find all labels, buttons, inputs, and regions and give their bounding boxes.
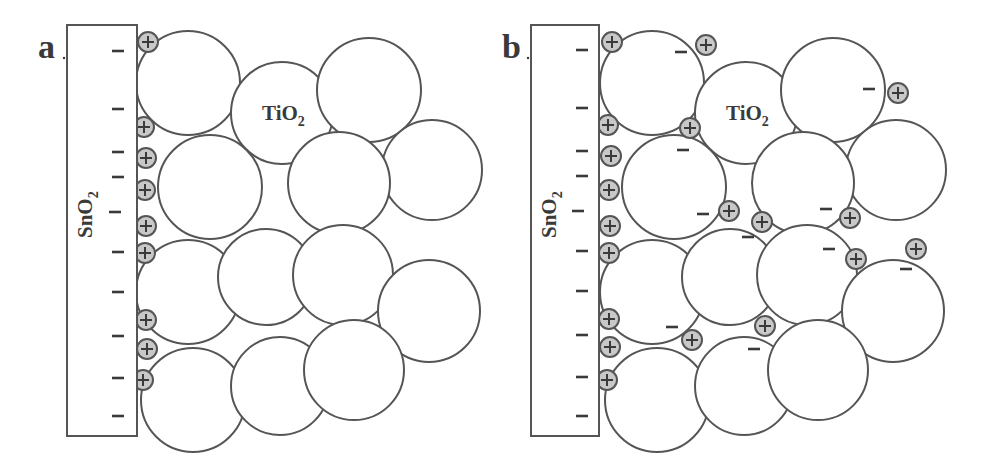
tio2-nanoparticle (141, 348, 245, 452)
tio2-nanoparticle (622, 135, 726, 239)
panel-label: a (38, 28, 55, 65)
sno2-label: SnO2 (537, 191, 565, 238)
charge-distribution-figure: aSnO2TiO2 bSnO2TiO2 (0, 0, 990, 466)
positive-charge-icon (840, 208, 860, 228)
panel-a: aSnO2TiO2 (38, 25, 482, 452)
tio2-nanoparticle (382, 120, 482, 220)
positive-charge-icon (906, 239, 926, 259)
sno2-substrate: SnO2 (531, 25, 599, 436)
tio2-nanoparticle (317, 38, 421, 142)
positive-charge-icon (719, 201, 739, 221)
label-dot (63, 57, 65, 59)
positive-charge-icon (137, 339, 157, 359)
panel-label: b (502, 28, 521, 65)
positive-charge-icon (136, 310, 156, 330)
tio2-nanoparticle (158, 135, 262, 239)
positive-charge-icon (138, 32, 158, 52)
positive-charge-icon (846, 249, 866, 269)
positive-charge-icon (600, 337, 620, 357)
figure-canvas: aSnO2TiO2 bSnO2TiO2 (0, 0, 990, 466)
positive-charge-icon (755, 316, 775, 336)
tio2-nanoparticle (605, 348, 709, 452)
tio2-nanoparticle (846, 120, 946, 220)
positive-charge-icon (600, 216, 620, 236)
positive-charge-icon (599, 243, 619, 263)
positive-charge-icon (752, 212, 772, 232)
sno2-label: SnO2 (73, 191, 101, 238)
positive-charge-icon (696, 35, 716, 55)
positive-charge-icon (602, 32, 622, 52)
tio2-nanoparticle (768, 320, 868, 420)
positive-charge-icon (599, 180, 619, 200)
positive-charge-icon (136, 148, 156, 168)
label-dot (527, 57, 529, 59)
positive-charge-icon (136, 216, 156, 236)
positive-charge-icon (599, 309, 619, 329)
positive-charge-icon (682, 330, 702, 350)
sno2-substrate: SnO2 (67, 25, 137, 436)
panel-b: bSnO2TiO2 (502, 25, 946, 452)
tio2-nanoparticle (304, 320, 404, 420)
positive-charge-icon (601, 146, 621, 166)
tio2-nanoparticle (288, 132, 390, 234)
positive-charge-icon (888, 83, 908, 103)
positive-charge-icon (680, 118, 700, 138)
tio2-particles (136, 31, 482, 452)
positive-charge-icon (598, 115, 618, 135)
